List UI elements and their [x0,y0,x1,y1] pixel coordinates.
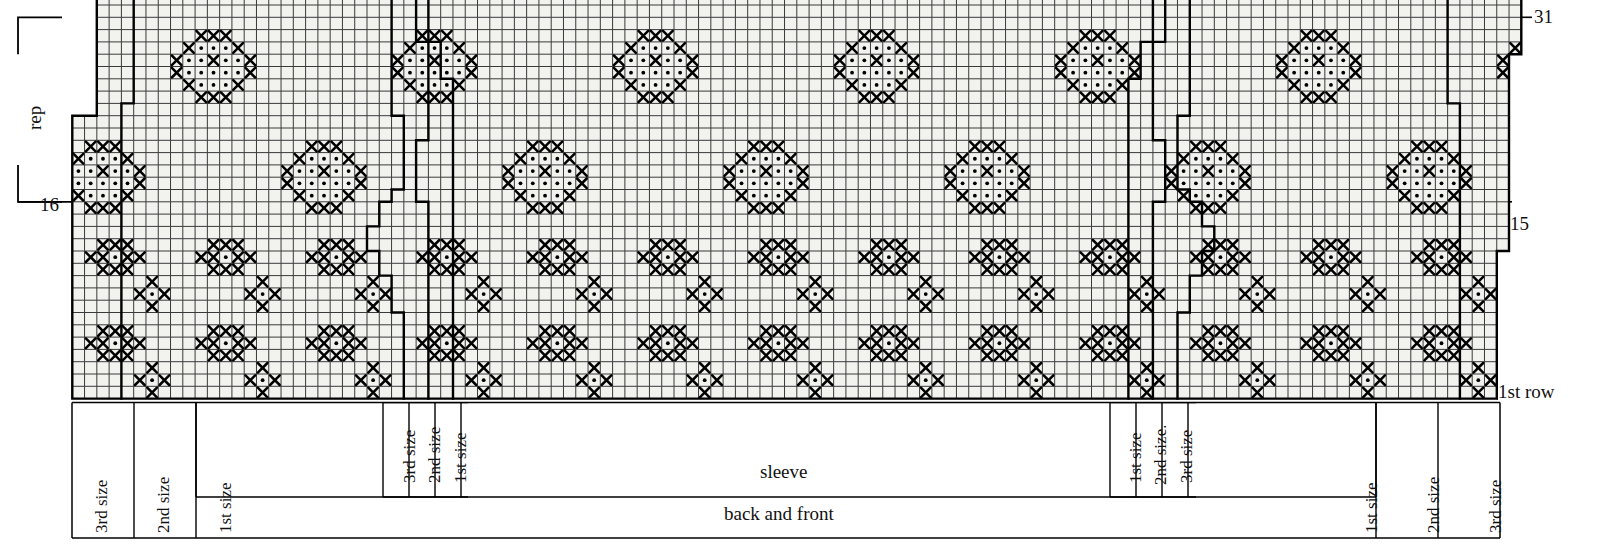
size-label-left-inner-3rd: 3rd size [400,430,420,483]
size-label-left-outer-3rd: 3rd size [92,480,112,533]
row-label-16: 16 [40,194,59,216]
row-label-first-row: 1st row [1498,381,1554,403]
size-label-right-inner-3rd: 3rd size [1177,430,1197,483]
size-label-right-outer-3rd: 3rd size [1486,480,1506,533]
size-label-left-outer-2nd: 2nd size [154,477,174,533]
size-label-right-outer-2nd: 2nd size [1424,477,1444,533]
repeat-label-rep: rep [24,106,46,130]
section-label-back-and-front: back and front [724,503,834,525]
size-label-right-inner-2nd: 2nd size. [1151,425,1171,485]
size-label-right-outer-1st: 1st size [1362,482,1382,533]
knitting-chart-page: 31 15 16 1st row rep sleeve back and fro… [0,0,1612,545]
size-label-left-inner-2nd: 2nd size [425,427,445,483]
size-label-left-outer-1st: 1st size [216,482,236,533]
row-label-31: 31 [1534,6,1553,28]
row-label-15: 15 [1510,213,1529,235]
size-label-right-inner-1st: 1st size [1126,432,1146,483]
section-label-sleeve: sleeve [760,461,807,483]
size-label-left-inner-1st: 1st size [451,432,471,483]
